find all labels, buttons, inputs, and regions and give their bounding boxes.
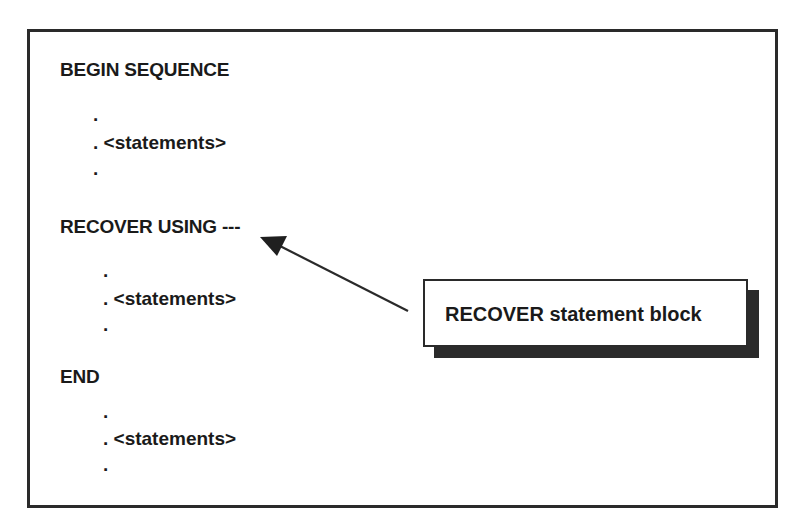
callout-label: RECOVER statement block — [445, 281, 702, 345]
pointer-arrow-icon — [0, 0, 798, 529]
recover-callout-box: RECOVER statement block — [423, 279, 748, 347]
